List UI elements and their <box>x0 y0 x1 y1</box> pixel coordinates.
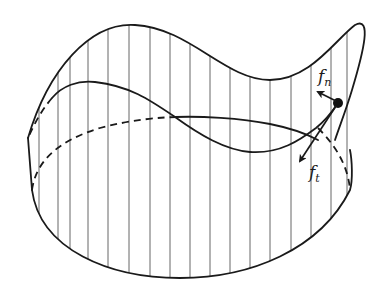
front-bottom-edge <box>32 150 352 278</box>
cylindrical-surface-diagram <box>0 0 390 301</box>
tangential-force-label: ft <box>309 162 320 185</box>
left-silhouette <box>28 138 32 190</box>
inner-rim-curve <box>175 117 318 140</box>
normal-force-label: fn <box>318 66 331 89</box>
normal-force-arrow <box>318 92 336 101</box>
back-bottom-edge-right-dashed <box>318 128 350 190</box>
back-bottom-edge-dashed <box>32 117 180 190</box>
